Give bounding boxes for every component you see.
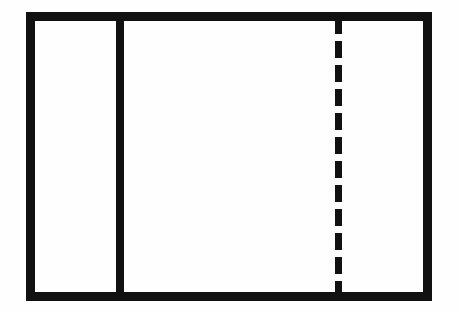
outer-rectangle: [26, 12, 432, 301]
drawing-canvas: [0, 0, 459, 312]
dashed-center-line: [335, 17, 342, 297]
solid-vertical-divider: [116, 12, 124, 301]
